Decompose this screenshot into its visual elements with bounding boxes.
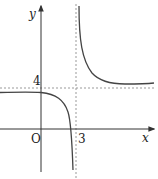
vertical-asymptote-label: 3 bbox=[78, 132, 86, 146]
function-graph: y x O 4 3 bbox=[0, 0, 158, 179]
horizontal-asymptote-label: 4 bbox=[33, 74, 41, 88]
y-axis-label: y bbox=[28, 7, 36, 21]
x-axis-label: x bbox=[142, 131, 149, 145]
curve-right-branch bbox=[79, 6, 154, 84]
origin-label: O bbox=[31, 132, 41, 146]
